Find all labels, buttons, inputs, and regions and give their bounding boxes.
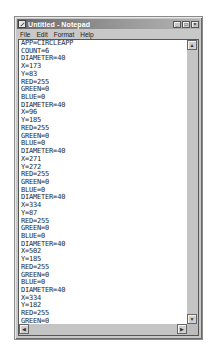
text-line: DIAMETER=40 — [21, 287, 187, 295]
scroll-down-icon[interactable]: ▼ — [187, 314, 197, 324]
notepad-window: Untitled - Notepad _ □ × File Edit Forma… — [14, 16, 203, 340]
close-button[interactable]: × — [191, 21, 199, 28]
text-line: X=334 — [21, 202, 187, 210]
window-controls: _ □ × — [173, 21, 199, 28]
text-line: GREEN=0 — [21, 86, 187, 94]
scroll-up-icon[interactable]: ▲ — [187, 40, 197, 50]
text-line: DIAMETER=40 — [21, 148, 187, 156]
text-line: GREEN=0 — [21, 133, 187, 141]
text-line: X=502 — [21, 248, 187, 256]
menu-file[interactable]: File — [17, 31, 33, 38]
text-editor: APP=CIRCLEAPPCOUNT=6DIAMETER=40X=173Y=83… — [18, 39, 199, 336]
text-line: GREEN=0 — [21, 179, 187, 187]
menu-format[interactable]: Format — [51, 31, 78, 38]
scroll-left-icon[interactable]: ◀ — [19, 324, 29, 334]
scrollbar-corner — [187, 324, 198, 335]
text-line: GREEN=0 — [21, 225, 187, 233]
notepad-icon[interactable] — [18, 20, 26, 28]
menu-bar: File Edit Format Help — [17, 30, 200, 39]
text-line: DIAMETER=40 — [21, 102, 187, 110]
text-line: GREEN=0 — [21, 272, 187, 280]
text-area[interactable]: APP=CIRCLEAPPCOUNT=6DIAMETER=40X=173Y=83… — [19, 40, 187, 324]
scroll-right-icon[interactable]: ▶ — [177, 324, 187, 334]
vertical-scrollbar[interactable]: ▲ ▼ — [187, 40, 198, 324]
menu-help[interactable]: Help — [77, 31, 96, 38]
title-bar[interactable]: Untitled - Notepad _ □ × — [17, 19, 200, 29]
text-line: DIAMETER=40 — [21, 241, 187, 249]
horizontal-scrollbar[interactable]: ◀ ▶ — [19, 324, 187, 335]
menu-edit[interactable]: Edit — [33, 31, 50, 38]
text-line: DIAMETER=40 — [21, 55, 187, 63]
text-line: DIAMETER=40 — [21, 194, 187, 202]
text-line: X=334 — [21, 295, 187, 303]
text-line: X=271 — [21, 156, 187, 164]
window-title: Untitled - Notepad — [28, 21, 90, 28]
text-line: X=96 — [21, 109, 187, 117]
minimize-button[interactable]: _ — [173, 21, 181, 28]
text-line: X=173 — [21, 63, 187, 71]
maximize-button[interactable]: □ — [182, 21, 190, 28]
